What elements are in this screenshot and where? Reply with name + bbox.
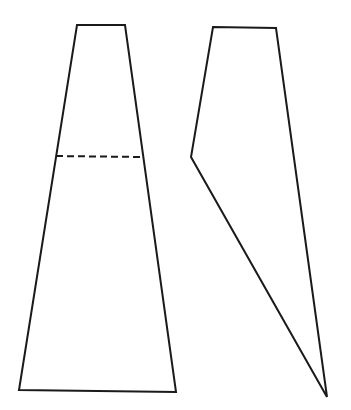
- right-quadrilateral-shape: [191, 27, 327, 397]
- left-trapezoid-shape: [19, 25, 176, 392]
- left-trapezoid-dashed-cut-line: [56, 156, 143, 157]
- diagram-canvas: [0, 0, 351, 410]
